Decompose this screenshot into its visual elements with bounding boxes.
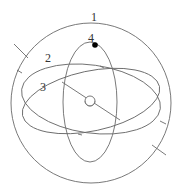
axis-line-bottom-right <box>152 145 166 155</box>
pivot-right <box>160 121 166 124</box>
label-3: 3 <box>40 80 46 94</box>
label-1: 1 <box>91 10 97 24</box>
label-2: 2 <box>45 51 51 65</box>
tick-mark <box>78 134 82 135</box>
label-4: 4 <box>88 31 94 45</box>
gimbal-diagram: 1 2 3 4 <box>0 0 181 189</box>
